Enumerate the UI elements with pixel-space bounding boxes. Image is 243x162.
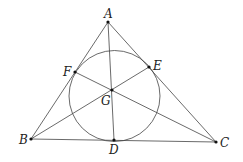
point-e	[147, 65, 150, 68]
segment-be	[31, 67, 149, 139]
segment-ad	[108, 22, 114, 140]
point-g	[110, 88, 113, 91]
label-e: E	[152, 59, 162, 73]
segment-cf	[75, 72, 216, 142]
point-d	[112, 138, 115, 141]
label-a: A	[103, 7, 113, 21]
label-c: C	[220, 136, 229, 150]
point-b	[29, 137, 32, 140]
triangle-diagram: A B C D E F G	[0, 0, 243, 162]
point-c	[214, 140, 217, 143]
label-f: F	[62, 65, 72, 79]
label-d: D	[108, 143, 119, 157]
label-g: G	[101, 94, 111, 108]
triangle-abc	[31, 22, 216, 142]
point-f	[73, 70, 76, 73]
label-b: B	[18, 133, 28, 147]
